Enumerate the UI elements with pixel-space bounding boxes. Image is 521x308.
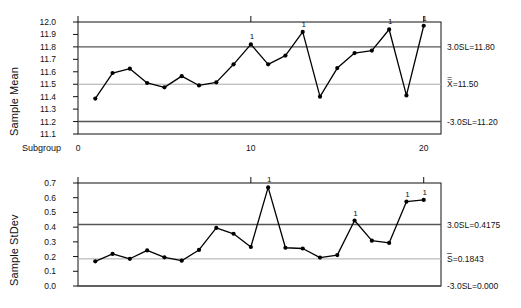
svg-text:1: 1 <box>250 32 255 41</box>
sdev-chart-lcl-annotation: -3.0SL=0.000 <box>447 282 498 291</box>
sdev-control-chart: Sample StDev 0.70.60.50.40.30.20.10.0 11… <box>0 158 521 308</box>
xbar-x-axis-title: Subgroup <box>22 143 61 153</box>
svg-text:1: 1 <box>405 190 410 199</box>
svg-text:1: 1 <box>353 209 358 218</box>
xbar-chart-lcl-text: -3.0SL=11.20 <box>447 117 498 127</box>
svg-text:1: 1 <box>422 188 427 197</box>
svg-text:1: 1 <box>301 20 306 29</box>
xbar-x-tick: 10 <box>237 143 265 153</box>
xbar-chart-center-text: X=11.50 <box>447 79 478 89</box>
xbar-chart-center-annotation: =X=11.50 <box>447 76 478 89</box>
xbar-x-tick: 0 <box>64 143 92 153</box>
sdev-chart-ucl-annotation: 3.0SL=0.4175 <box>447 221 500 230</box>
xbar-chart-lcl-annotation: -3.0SL=11.20 <box>447 118 498 127</box>
xbar-control-chart: Sample Mean 12.011.911.811.711.611.511.4… <box>0 0 521 160</box>
sdev-chart-center-text: S=0.1843 <box>447 254 484 264</box>
sdev-plot-area: 1111 <box>0 158 521 308</box>
svg-text:1: 1 <box>422 14 427 23</box>
xbar-plot-area: 1111 <box>0 0 521 160</box>
sdev-chart-lcl-text: -3.0SL=0.000 <box>447 281 498 291</box>
xbar-chart-ucl-text: 3.0SL=11.80 <box>447 42 495 52</box>
xbar-x-tick: 20 <box>410 143 438 153</box>
sdev-chart-center-annotation: –S=0.1843 <box>447 251 484 264</box>
xbar-chart-ucl-annotation: 3.0SL=11.80 <box>447 43 495 52</box>
svg-text:1: 1 <box>267 175 272 184</box>
sdev-chart-ucl-text: 3.0SL=0.4175 <box>447 220 500 230</box>
svg-text:1: 1 <box>388 17 393 26</box>
